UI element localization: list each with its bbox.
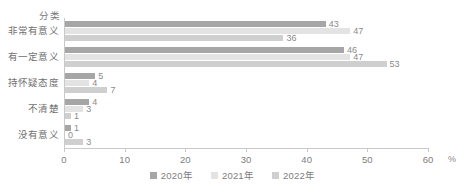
legend-label: 2022年 — [283, 168, 315, 182]
legend-swatch-icon — [211, 172, 218, 179]
bar-value-label: 47 — [353, 26, 363, 36]
bar-value-label: 1 — [74, 111, 79, 121]
legend-swatch-icon — [150, 172, 157, 179]
bar-row: 持怀疑态度547 — [64, 70, 428, 96]
x-tick-mark — [428, 148, 429, 152]
x-tick-label: 30 — [241, 154, 252, 165]
bar-2022年[interactable] — [65, 87, 107, 93]
bar-2021年[interactable] — [65, 80, 89, 86]
category-label: 非常有意义 — [8, 18, 60, 44]
bar-group-item: 3 — [65, 139, 83, 145]
x-tick-mark — [367, 148, 368, 152]
bar-group-item: 46 — [65, 47, 344, 53]
legend-item[interactable]: 2022年 — [272, 168, 315, 182]
category-label: 持怀疑态度 — [8, 70, 60, 96]
x-tick-label: 0 — [61, 154, 66, 165]
bar-group-item: 47 — [65, 54, 350, 60]
bar-2022年[interactable] — [65, 113, 71, 119]
plot-area: 非常有意义434736有一定意义464753持怀疑态度547不清楚431没有意义… — [64, 18, 428, 148]
bar-group-item: 1 — [65, 113, 71, 119]
bar-row: 有一定意义464753 — [64, 44, 428, 70]
bar-value-label: 3 — [86, 137, 91, 147]
bar-row: 非常有意义434736 — [64, 18, 428, 44]
x-axis-unit: % — [448, 154, 456, 164]
bar-value-label: 36 — [286, 33, 296, 43]
chart-legend: 2020年2021年2022年 — [0, 168, 465, 182]
bar-group-item: 36 — [65, 35, 283, 41]
x-tick-mark — [246, 148, 247, 152]
bar-value-label: 7 — [110, 85, 115, 95]
legend-item[interactable]: 2020年 — [150, 168, 193, 182]
bar-group-item: 5 — [65, 73, 95, 79]
x-tick-mark — [185, 148, 186, 152]
category-label: 没有意义 — [18, 122, 59, 148]
x-tick-mark — [64, 148, 65, 152]
x-tick-mark — [307, 148, 308, 152]
x-tick-label: 10 — [119, 154, 130, 165]
x-tick-label: 40 — [301, 154, 312, 165]
bar-value-label: 53 — [390, 59, 400, 69]
x-tick-label: 50 — [362, 154, 373, 165]
bar-2022年[interactable] — [65, 35, 283, 41]
bar-2020年[interactable] — [65, 73, 95, 79]
bar-group-item: 7 — [65, 87, 107, 93]
category-label: 有一定意义 — [8, 44, 60, 70]
bar-2022年[interactable] — [65, 139, 83, 145]
legend-swatch-icon — [272, 172, 279, 179]
bar-value-label: 1 — [74, 123, 79, 133]
bar-group-item: 4 — [65, 80, 89, 86]
bar-2021年[interactable] — [65, 28, 350, 34]
x-tick-label: 20 — [180, 154, 191, 165]
category-label: 不清楚 — [28, 96, 59, 122]
bar-2022年[interactable] — [65, 61, 387, 67]
x-tick-label: 60 — [423, 154, 434, 165]
legend-label: 2021年 — [222, 168, 254, 182]
bar-value-label: 3 — [86, 104, 91, 114]
bar-2020年[interactable] — [65, 47, 344, 53]
bar-group-item: 53 — [65, 61, 387, 67]
bar-2021年[interactable] — [65, 54, 350, 60]
bar-2020年[interactable] — [65, 21, 326, 27]
legend-label: 2020年 — [161, 168, 193, 182]
bar-group-item: 47 — [65, 28, 350, 34]
bar-chart: 分类 非常有意义434736有一定意义464753持怀疑态度547不清楚431没… — [0, 0, 465, 191]
x-tick-mark — [125, 148, 126, 152]
bar-group-item: 43 — [65, 21, 326, 27]
legend-item[interactable]: 2021年 — [211, 168, 254, 182]
bar-value-label: 4 — [92, 97, 97, 107]
bar-value-label: 5 — [98, 71, 103, 81]
bar-row: 不清楚431 — [64, 96, 428, 122]
bar-row: 没有意义103 — [64, 122, 428, 148]
